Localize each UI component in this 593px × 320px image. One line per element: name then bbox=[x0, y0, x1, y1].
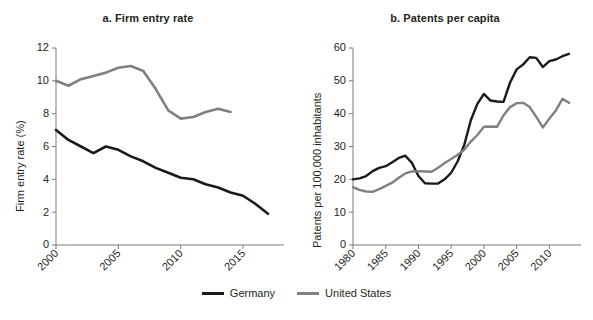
svg-text:60: 60 bbox=[334, 41, 346, 53]
legend-label-germany: Germany bbox=[230, 288, 275, 299]
svg-text:2: 2 bbox=[43, 206, 49, 218]
svg-text:2010: 2010 bbox=[528, 247, 554, 273]
legend-label-united-states: United States bbox=[325, 288, 391, 299]
svg-text:2005: 2005 bbox=[495, 247, 521, 273]
panel-b-plot: 0102030405060198019851990199520002005201… bbox=[297, 0, 593, 290]
svg-text:20: 20 bbox=[334, 173, 346, 185]
svg-text:50: 50 bbox=[334, 74, 346, 86]
svg-text:1985: 1985 bbox=[364, 247, 390, 273]
svg-text:4: 4 bbox=[43, 173, 49, 185]
legend-swatch-united-states bbox=[297, 292, 319, 295]
svg-text:6: 6 bbox=[43, 140, 49, 152]
chart-panel-a: a. Firm entry rate Firm entry rate (%) 0… bbox=[0, 0, 296, 290]
panel-a-plot: 0246810122000200520102015 bbox=[0, 0, 296, 290]
svg-text:10: 10 bbox=[334, 206, 346, 218]
svg-text:30: 30 bbox=[334, 140, 346, 152]
figure-container: a. Firm entry rate Firm entry rate (%) 0… bbox=[0, 0, 593, 320]
legend-item-united-states: United States bbox=[297, 288, 391, 299]
svg-text:40: 40 bbox=[334, 107, 346, 119]
svg-text:1990: 1990 bbox=[397, 247, 423, 273]
svg-text:12: 12 bbox=[37, 41, 49, 53]
svg-text:1980: 1980 bbox=[332, 247, 358, 273]
series-line-united-states bbox=[353, 99, 569, 192]
svg-text:0: 0 bbox=[340, 238, 346, 250]
svg-text:10: 10 bbox=[37, 74, 49, 86]
chart-panel-b: b. Patents per capita Patents per 100,00… bbox=[297, 0, 593, 290]
series-line-germany bbox=[56, 130, 268, 214]
svg-text:2015: 2015 bbox=[222, 247, 248, 273]
series-line-united-states bbox=[56, 66, 231, 119]
legend-item-germany: Germany bbox=[202, 288, 275, 299]
svg-text:8: 8 bbox=[43, 107, 49, 119]
svg-text:1995: 1995 bbox=[430, 247, 456, 273]
svg-text:2000: 2000 bbox=[35, 247, 61, 273]
legend-swatch-germany bbox=[202, 292, 224, 295]
svg-text:2000: 2000 bbox=[463, 247, 489, 273]
svg-text:0: 0 bbox=[43, 238, 49, 250]
svg-text:2005: 2005 bbox=[97, 247, 123, 273]
svg-text:2010: 2010 bbox=[159, 247, 185, 273]
legend: Germany United States bbox=[0, 288, 593, 299]
